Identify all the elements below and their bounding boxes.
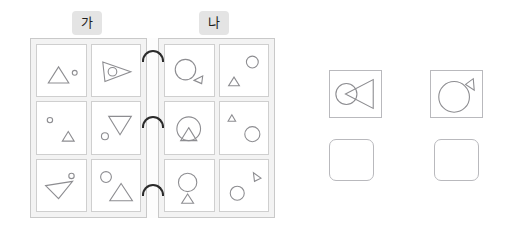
- cell-na-2-shapes: [220, 45, 269, 96]
- cell-ga-6: [91, 159, 142, 212]
- cell-ga-4-shapes: [92, 102, 141, 153]
- right-page: [158, 38, 275, 218]
- answer-figure-2: [430, 70, 483, 118]
- left-page: [30, 38, 147, 218]
- cell-na-6: [219, 159, 270, 212]
- cell-ga-5: [36, 159, 87, 212]
- cell-na-6-shapes: [220, 160, 269, 211]
- answer-figure-2-shapes: [431, 71, 482, 117]
- answer-figure-1: [329, 70, 382, 118]
- cell-na-1: [164, 44, 215, 97]
- cell-na-3: [164, 101, 215, 154]
- cell-ga-6-shapes: [92, 160, 141, 211]
- answer-blank-2[interactable]: [434, 139, 479, 181]
- cell-na-4-shapes: [220, 102, 269, 153]
- page-label-na: 나: [199, 11, 229, 35]
- answer-figure-1-shapes: [330, 71, 381, 117]
- cell-ga-1-shapes: [37, 45, 86, 96]
- cell-ga-3: [36, 101, 87, 154]
- cell-na-5-shapes: [165, 160, 214, 211]
- cell-ga-1: [36, 44, 87, 97]
- cell-na-4: [219, 101, 270, 154]
- cell-ga-5-shapes: [37, 160, 86, 211]
- cell-ga-2: [91, 44, 142, 97]
- cell-ga-3-shapes: [37, 102, 86, 153]
- book-figure: [30, 38, 288, 218]
- answer-group-1: [329, 70, 382, 181]
- cell-na-1-shapes: [165, 45, 214, 96]
- right-page-grid: [164, 44, 269, 212]
- page-label-ga: 가: [72, 11, 102, 35]
- left-page-grid: [36, 44, 141, 212]
- cell-na-2: [219, 44, 270, 97]
- cell-na-5: [164, 159, 215, 212]
- cell-ga-4: [91, 101, 142, 154]
- answer-blank-1[interactable]: [329, 139, 374, 181]
- answer-group-2: [430, 70, 483, 181]
- cell-na-3-shapes: [165, 102, 214, 153]
- cell-ga-2-shapes: [92, 45, 141, 96]
